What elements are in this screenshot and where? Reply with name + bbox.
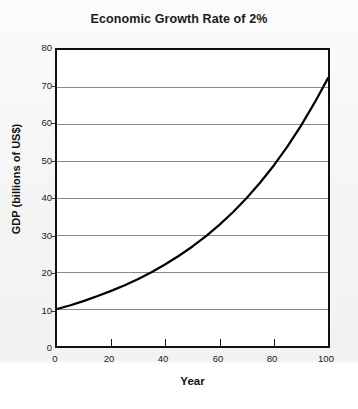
gdp-growth-line — [57, 78, 328, 309]
x-tick-label-40: 40 — [143, 353, 183, 364]
plot-inner — [57, 50, 328, 346]
y-tick-label-60: 60 — [26, 118, 52, 128]
y-tick-label-20: 20 — [26, 268, 52, 278]
plot-area — [55, 48, 330, 348]
y-tick-label-50: 50 — [26, 156, 52, 166]
x-tick-label-80: 80 — [252, 353, 292, 364]
y-tick-label-70: 70 — [26, 81, 52, 91]
x-tick-label-100: 100 — [306, 353, 346, 364]
chart-figure: Economic Growth Rate of 2% 0102030405060… — [0, 0, 358, 409]
data-series-curve — [57, 50, 328, 346]
y-tick-label-0: 0 — [26, 343, 52, 353]
x-tick-label-0: 0 — [35, 353, 75, 364]
chart-title: Economic Growth Rate of 2% — [0, 12, 358, 26]
y-tick-label-80: 80 — [26, 43, 52, 53]
y-tick-label-40: 40 — [26, 193, 52, 203]
y-tick-label-10: 10 — [26, 306, 52, 316]
x-axis-label: Year — [55, 375, 330, 387]
x-tick-label-20: 20 — [89, 353, 129, 364]
y-axis-tick-labels: 01020304050607080 — [22, 48, 52, 348]
x-axis-tick-labels: 020406080100 — [55, 353, 330, 367]
x-tick-label-60: 60 — [198, 353, 238, 364]
y-axis-label: GDP (billions of US$) — [10, 99, 22, 259]
y-tick-label-30: 30 — [26, 231, 52, 241]
